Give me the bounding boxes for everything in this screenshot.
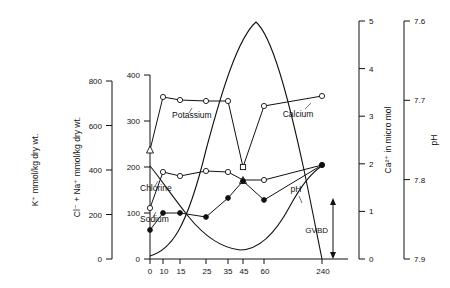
axis-k-tick-600: 600 bbox=[89, 122, 103, 131]
axis-x-tick-10: 10 bbox=[160, 267, 169, 276]
axis-k-tick-0: 0 bbox=[98, 255, 103, 264]
axis-x-tick-45: 45 bbox=[240, 267, 249, 276]
axis-ph-tick-76: 7.6 bbox=[414, 17, 426, 26]
axis-ca-tick-2: 2 bbox=[369, 160, 374, 169]
axis-clna-tick-400: 400 bbox=[127, 71, 141, 80]
series-label-potassium: Potassium bbox=[172, 110, 212, 120]
series-label-sodium: Sodium bbox=[140, 214, 169, 224]
axis-clna-tick-0: 0 bbox=[136, 255, 141, 264]
axis-k-tick-200: 200 bbox=[89, 211, 103, 220]
axis-clna-label: Cl⁻ + Na⁺ mmol/kg dry wt. bbox=[72, 117, 82, 217]
series-label-group-calcium: Calcium bbox=[283, 103, 314, 119]
figure-container: 800 600 400 200 0 K⁺ mmol/kg dry wt. 400… bbox=[0, 0, 450, 288]
series-label-ph: pH bbox=[291, 184, 302, 194]
series-calcium bbox=[150, 22, 322, 259]
axis-k-tick-800: 800 bbox=[89, 77, 103, 86]
axis-clna-tick-300: 300 bbox=[127, 117, 141, 126]
axis-ca-tick-5: 5 bbox=[369, 17, 374, 26]
axis-k-label: K⁺ mmol/kg dry wt. bbox=[30, 134, 40, 207]
series-potassium: Potassium bbox=[147, 93, 325, 169]
axis-ph: 7.6 7.7 7.8 7.9 pH bbox=[404, 17, 439, 264]
axis-ca-tick-3: 3 bbox=[369, 112, 374, 121]
axis-ph-tick-79: 7.9 bbox=[414, 255, 426, 264]
axis-ca-tick-4: 4 bbox=[369, 65, 374, 74]
axis-clna: 400 300 200 100 0 Cl⁻ + Na⁺ mmol/kg dry … bbox=[72, 71, 150, 264]
gvbd-label: GVBD bbox=[305, 226, 328, 235]
axis-x-tick-25: 25 bbox=[203, 267, 212, 276]
series-label-group-ph: pH bbox=[291, 184, 302, 203]
series-potassium-markers bbox=[147, 93, 325, 169]
axis-ph-tick-77: 7.7 bbox=[414, 96, 426, 105]
axis-ph-label: pH bbox=[429, 135, 439, 146]
axis-k-tick-400: 400 bbox=[89, 166, 103, 175]
axis-x-tick-60: 60 bbox=[261, 267, 270, 276]
axis-x-tick-35: 35 bbox=[224, 267, 233, 276]
axis-ca-tick-1: 1 bbox=[369, 207, 374, 216]
axis-k: 800 600 400 200 0 K⁺ mmol/kg dry wt. bbox=[30, 77, 112, 264]
gvbd-arrow-down-icon bbox=[330, 252, 336, 259]
chart-svg: 800 600 400 200 0 K⁺ mmol/kg dry wt. 400… bbox=[0, 0, 450, 288]
axis-ca-label: Ca²⁺ in micro mol bbox=[383, 106, 393, 173]
gvbd-arrow-up-icon bbox=[330, 198, 336, 205]
series-calcium-entry-curve bbox=[152, 14, 316, 76]
axis-x-tick-0: 0 bbox=[148, 267, 153, 276]
axis-clna-tick-100: 100 bbox=[127, 209, 141, 218]
series-ph bbox=[150, 166, 322, 250]
axis-ca: 5 4 3 2 1 0 Ca²⁺ in micro mol bbox=[359, 17, 393, 264]
series-label-calcium: Calcium bbox=[283, 109, 314, 119]
axis-x: 0 10 15 25 35 45 60 240 bbox=[148, 259, 348, 276]
axis-ph-tick-78: 7.8 bbox=[414, 176, 426, 185]
axis-ca-tick-0: 0 bbox=[369, 255, 374, 264]
axis-x-tick-15: 15 bbox=[177, 267, 186, 276]
axis-clna-tick-200: 200 bbox=[127, 163, 141, 172]
axis-x-tick-240: 240 bbox=[316, 267, 330, 276]
